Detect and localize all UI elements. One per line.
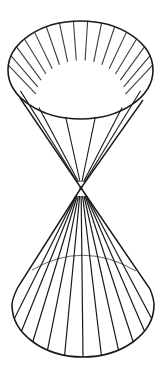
- upper-inner-ruling: [73, 21, 76, 60]
- double-cone-figure: [0, 0, 164, 376]
- upper-inner-ruling: [120, 47, 144, 80]
- upper-inner-ruling: [85, 21, 88, 60]
- upper-outer-ruling: [85, 91, 141, 182]
- lower-ruling: [81, 196, 83, 357]
- upper-base-ellipse: [8, 21, 153, 119]
- lower-nappe: [12, 188, 154, 357]
- upper-inner-ruling: [94, 23, 102, 62]
- upper-nappe: [8, 21, 153, 188]
- lower-ruling: [48, 196, 79, 350]
- upper-inner-ruling: [102, 27, 115, 65]
- lower-ruling: [86, 196, 144, 331]
- upper-inner-ruling: [59, 23, 67, 62]
- lower-ruling: [84, 196, 119, 350]
- upper-inner-ruling: [115, 39, 136, 74]
- upper-outer-ruling: [20, 91, 77, 182]
- upper-inner-ruling: [17, 47, 41, 80]
- apex-vertex: [79, 186, 82, 189]
- lower-base-back-arc: [32, 255, 136, 271]
- lower-ruling: [83, 196, 102, 355]
- lower-ruling: [85, 196, 133, 342]
- upper-inner-ruling: [46, 27, 59, 65]
- upper-inner-ruling: [24, 39, 45, 74]
- lower-ruling: [22, 196, 77, 331]
- upper-silhouette-right: [81, 100, 143, 188]
- upper-inner-ruling: [109, 32, 126, 69]
- double-cone-drawing: [0, 0, 164, 376]
